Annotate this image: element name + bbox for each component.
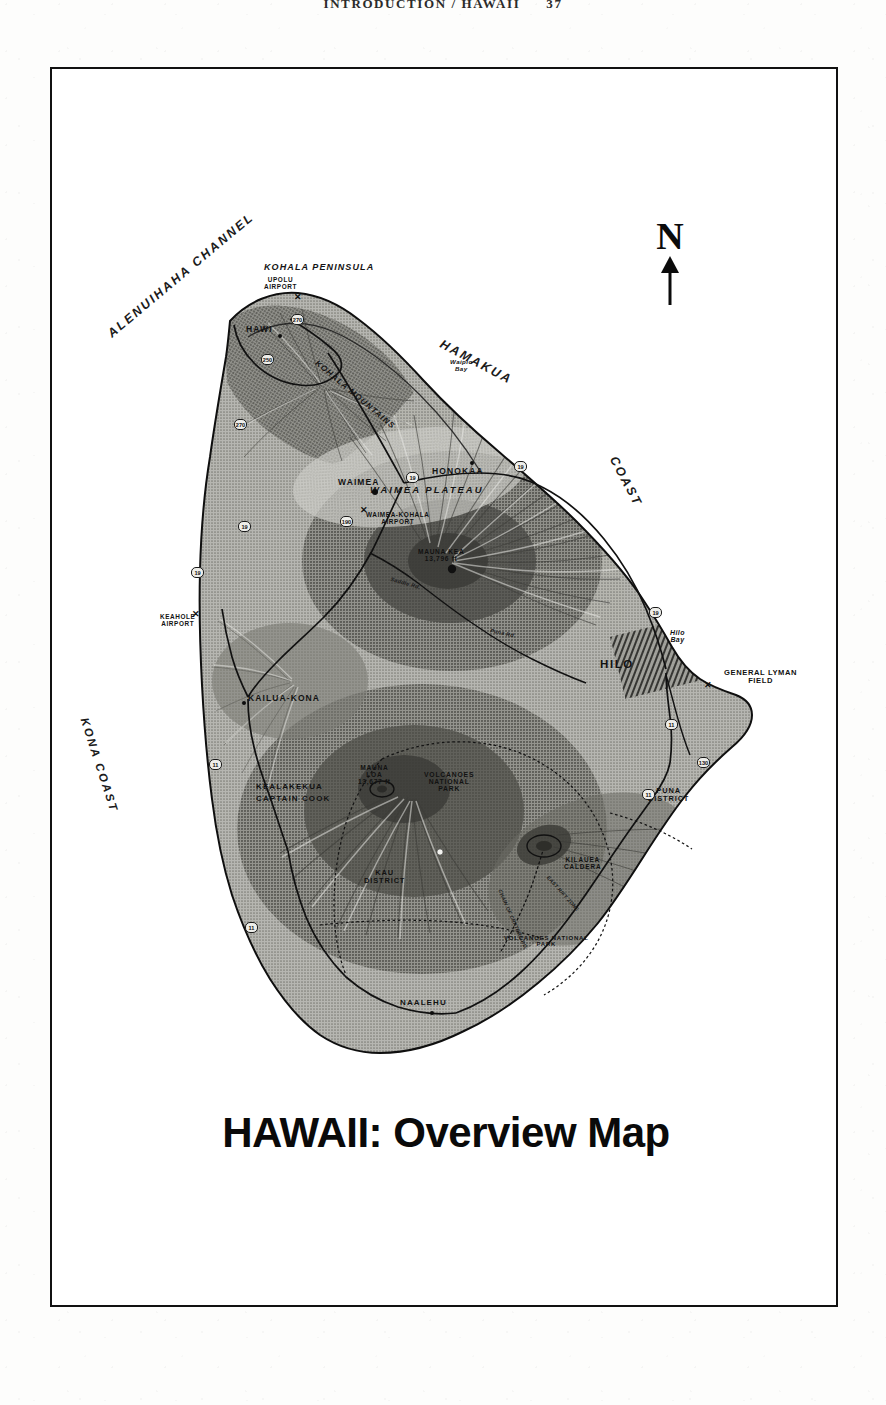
route-shield-19-north[interactable]: 19: [238, 521, 251, 532]
north-arrow-icon: [648, 253, 692, 307]
airport-marker-waimea-kohala: ✕: [360, 506, 368, 515]
kilauea-caldera-line2: CALDERA: [564, 863, 602, 870]
map-title: HAWAII: Overview Map: [52, 1109, 840, 1157]
north-arrow-label: N: [648, 217, 692, 255]
vnp-upper-line3: PARK: [438, 785, 460, 792]
label-honokaa: HONOKAA: [432, 467, 484, 476]
label-mauna-loa: MAUNA LOA 13,677 ft: [358, 765, 391, 786]
general-lyman-field-line2: FIELD: [748, 676, 773, 685]
waipio-bay-line2: Bay: [455, 365, 468, 372]
route-shield-250[interactable]: 250: [261, 354, 274, 365]
route-shield-270-north[interactable]: 270: [291, 314, 304, 325]
label-waipio-bay: Waipio Bay: [450, 359, 473, 372]
label-keahole-airport: KEAHOLE AIRPORT: [160, 614, 195, 627]
waimea-kohala-airport-line2: AIRPORT: [381, 518, 414, 525]
city-dot-honokaa: [470, 461, 474, 465]
label-upolu-airport: UPOLU AIRPORT: [264, 277, 297, 290]
vnp-upper-line1: VOLCANOES: [424, 771, 474, 778]
label-hilo: HILO: [600, 658, 634, 670]
vnp-upper-line2: NATIONAL: [429, 778, 470, 785]
north-arrow: N: [648, 217, 692, 313]
airport-marker-keahole: ✕: [192, 610, 200, 619]
hilo-bay-line1: Hilo: [670, 629, 685, 636]
route-shield-270-west[interactable]: 270: [234, 419, 247, 430]
route-shield-11-south[interactable]: 11: [245, 922, 258, 933]
label-hawi: HAWI: [246, 325, 273, 334]
running-head: INTRODUCTION / HAWAII37: [0, 0, 886, 12]
airport-marker-general-lyman: ✕: [704, 681, 712, 690]
label-volcanoes-national-park-upper: VOLCANOES NATIONAL PARK: [424, 771, 474, 792]
label-captain-cook: CAPTAIN COOK: [256, 795, 330, 803]
label-mauna-kea: MAUNA KEA 13,796 ft: [418, 549, 464, 563]
map-page-frame: ALENUIHAHA CHANNEL KONA COAST HAMAKUA CO…: [50, 67, 838, 1307]
running-head-page-number: 37: [546, 0, 562, 11]
keahole-airport-line2: AIRPORT: [161, 620, 194, 627]
route-shield-19-hilo[interactable]: 19: [649, 607, 662, 618]
city-dot-hawi: [278, 334, 282, 338]
hilo-bay-line2: Bay: [670, 636, 684, 643]
label-waimea-kohala-airport: WAIMEA-KOHALA AIRPORT: [366, 512, 430, 525]
route-shield-11-hilo[interactable]: 11: [665, 719, 678, 730]
airport-marker-upolu: ✕: [294, 293, 302, 302]
route-shield-19-keahole[interactable]: 19: [191, 567, 204, 578]
mauna-loa-line3: 13,677 ft: [358, 778, 391, 785]
label-general-lyman-field: GENERAL LYMAN FIELD: [724, 669, 797, 685]
label-waimea-plateau: WAIMEA PLATEAU: [370, 485, 484, 495]
label-kau-district: KAU DISTRICT: [364, 869, 405, 885]
city-dot-naalehu: [430, 1011, 434, 1015]
route-shield-130[interactable]: 130: [697, 757, 710, 768]
route-shield-190[interactable]: 190: [340, 516, 353, 527]
upolu-airport-line2: AIRPORT: [264, 283, 297, 290]
route-shield-11-kona[interactable]: 11: [209, 759, 222, 770]
label-kealakekua: KEALAKEKUA: [256, 783, 323, 791]
kau-district-line2: DISTRICT: [364, 876, 405, 885]
running-head-text: INTRODUCTION / HAWAII: [323, 0, 520, 11]
label-hilo-bay: Hilo Bay: [670, 629, 685, 644]
label-kohala-peninsula: KOHALA PENINSULA: [264, 263, 374, 272]
mauna-kea-line2: 13,796 ft: [425, 555, 458, 562]
city-dot-kailua-kona: [242, 701, 246, 705]
label-kilauea-caldera: KILAUEA CALDERA: [564, 857, 602, 870]
city-dot-waimea: [372, 489, 378, 495]
map-canvas: ALENUIHAHA CHANNEL KONA COAST HAMAKUA CO…: [52, 69, 840, 1309]
label-naalehu: NAALEHU: [400, 999, 447, 1007]
label-waimea: WAIMEA: [338, 478, 380, 487]
vnp-lower-line2: PARK: [536, 941, 556, 947]
route-shield-11-puna[interactable]: 11: [642, 789, 655, 800]
label-kailua-kona: KAILUA-KONA: [248, 694, 320, 703]
route-shield-19-honokaa[interactable]: 19: [514, 461, 527, 472]
route-shield-19-waimea[interactable]: 19: [406, 472, 419, 483]
